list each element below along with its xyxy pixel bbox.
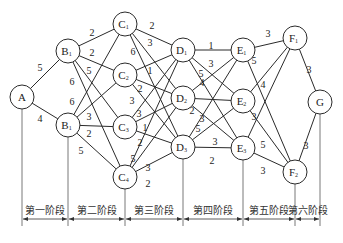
edge-weight: 2 — [138, 137, 143, 148]
node-b1: B1 — [56, 39, 80, 63]
arrowhead-right-icon — [119, 217, 124, 221]
edge-weight: 3 — [148, 37, 153, 48]
edge-weight: 3 — [137, 108, 142, 119]
stage-label: 第二阶段 — [77, 204, 117, 216]
node-d1: D1 — [171, 38, 195, 62]
edge-weight: 2 — [87, 128, 92, 139]
edge-weight: 3 — [252, 111, 257, 122]
node-g: G — [308, 90, 332, 114]
arrowhead-left-icon — [69, 217, 74, 221]
edge-weight: 6 — [131, 46, 136, 57]
stage-6: 第六阶段 — [288, 204, 328, 222]
edge-weight: 1 — [143, 122, 148, 133]
node-b2: B1 — [56, 113, 80, 137]
stage-3: 第三阶段 — [126, 204, 182, 222]
edge-weight: 3 — [87, 111, 92, 122]
edge-weight: 4 — [200, 77, 205, 88]
edge-weight: 2 — [150, 20, 155, 31]
edge-weight: 1 — [148, 65, 153, 76]
arrowhead-right-icon — [314, 217, 319, 221]
node-e3: E3 — [231, 136, 255, 160]
edge-weight: 3 — [209, 58, 214, 69]
stage-label: 第五阶段 — [249, 204, 289, 216]
edge-weight: 4 — [261, 79, 266, 90]
node-c4: C4 — [113, 165, 137, 189]
arrowhead-left-icon — [244, 217, 249, 221]
edge-weight: 5 — [79, 145, 84, 156]
edge-weight: 5 — [38, 62, 43, 73]
stage-label: 第一阶段 — [25, 204, 65, 216]
stage-label: 第三阶段 — [134, 204, 174, 216]
node-e1: E1 — [231, 38, 255, 62]
edge-weight: 5 — [87, 65, 92, 76]
arrowhead-left-icon — [23, 217, 28, 221]
edge-b1-c3 — [68, 51, 125, 127]
node-f2: F2 — [283, 160, 307, 184]
node-d3: D3 — [171, 135, 195, 159]
node-d2: D2 — [171, 86, 195, 110]
node-label: G — [316, 96, 324, 108]
edge-weight: 6 — [70, 96, 75, 107]
edge-weight: 3 — [304, 140, 309, 151]
edge-weight: 3 — [130, 95, 135, 106]
node-a: A — [10, 85, 34, 109]
edge-weight: 2 — [90, 27, 95, 38]
edge-weight: 3 — [261, 165, 266, 176]
stage-4: 第四阶段 — [184, 204, 242, 222]
arrowhead-right-icon — [62, 217, 67, 221]
stage-label: 第四阶段 — [193, 204, 233, 216]
node-e2: E2 — [231, 89, 255, 113]
stage-label: 第六阶段 — [288, 204, 328, 216]
node-label: A — [18, 91, 26, 103]
node-c2: C2 — [113, 63, 137, 87]
edge-weight: 2 — [210, 155, 215, 166]
edge-weight: 5 — [196, 123, 201, 134]
edge-weight: 3 — [213, 136, 218, 147]
node-c1: C1 — [113, 12, 137, 36]
arrowhead-left-icon — [184, 217, 189, 221]
arrowhead-left-icon — [126, 217, 131, 221]
edge-weight: 2 — [90, 47, 95, 58]
multistage-graph: 542256632523612331253213542353235435333 … — [0, 0, 343, 243]
edge-weight: 2 — [146, 178, 151, 189]
arrowhead-right-icon — [289, 217, 294, 221]
stage-1: 第一阶段 — [23, 204, 67, 222]
node-f1: F1 — [283, 26, 307, 50]
edge-weight: 3 — [266, 28, 271, 39]
stage-2: 第二阶段 — [69, 204, 124, 222]
edge-weight: 5 — [131, 153, 136, 164]
edge-c4-d2 — [125, 98, 183, 177]
node-c3: C3 — [113, 115, 137, 139]
edge-weight: 5 — [261, 139, 266, 150]
edge-weight: 3 — [307, 64, 312, 75]
arrowhead-right-icon — [177, 217, 182, 221]
edge-weight: 3 — [146, 162, 151, 173]
edge-weight: 6 — [70, 76, 75, 87]
edge-weight: 1 — [209, 40, 214, 51]
edge-weight: 2 — [138, 83, 143, 94]
edge-weight: 4 — [38, 113, 43, 124]
arrowhead-left-icon — [296, 217, 301, 221]
arrowhead-right-icon — [237, 217, 242, 221]
stage-ruler: 第一阶段第二阶段第三阶段第四阶段第五阶段第六阶段 — [23, 204, 328, 222]
nodes: AB1B1C1C2C3C4D1D2D3E1E2E3F1F2G — [10, 12, 332, 189]
stage-5: 第五阶段 — [244, 204, 294, 222]
